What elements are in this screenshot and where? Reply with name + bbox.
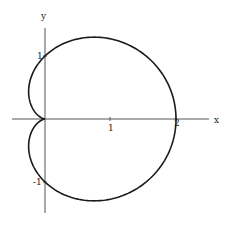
x-axis-label: x	[214, 115, 219, 125]
x-tick-label-1: 1	[108, 123, 114, 133]
y-tick-label-1: 1	[37, 51, 43, 61]
cardioid-plot: y x 1 2 1 -1	[0, 0, 230, 228]
y-tick-label-neg1: -1	[33, 177, 42, 187]
x-tick-label-2: 2	[174, 118, 180, 128]
y-axis-label: y	[40, 11, 47, 21]
